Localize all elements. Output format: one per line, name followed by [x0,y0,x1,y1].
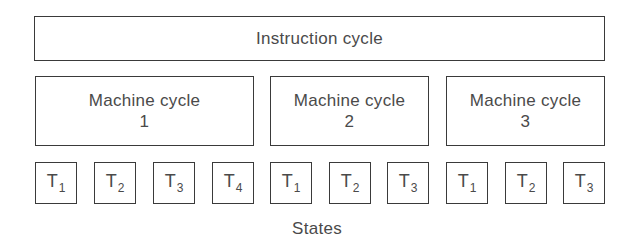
state-box: T3 [563,162,605,204]
state-box: T2 [94,162,136,204]
state-base: T [517,171,528,191]
state-subscript: 2 [353,181,360,195]
instruction-cycle-label: Instruction cycle [256,29,383,49]
state-subscript: 3 [177,181,184,195]
state-box: T1 [35,162,77,204]
state-base: T [224,171,235,191]
instruction-cycle-box: Instruction cycle [34,16,605,61]
state-box: T2 [505,162,547,204]
states-caption: States [0,219,634,239]
state-subscript: 3 [411,181,418,195]
state-subscript: 2 [529,181,536,195]
state-subscript: 2 [118,181,125,195]
state-base: T [458,171,469,191]
state-subscript: 4 [236,181,243,195]
state-box: T3 [153,162,195,204]
machine-cycle-label: Machine cycle [294,90,406,111]
machine-cycle-label: Machine cycle [89,90,201,111]
state-base: T [106,171,117,191]
state-subscript: 1 [59,181,66,195]
state-box: T2 [329,162,371,204]
state-base: T [341,171,352,191]
state-subscript: 1 [294,181,301,195]
machine-cycle-number: 2 [345,111,355,132]
state-subscript: 3 [587,181,594,195]
state-base: T [575,171,586,191]
state-box: T4 [212,162,254,204]
machine-cycle-2-box: Machine cycle 2 [270,76,429,146]
machine-cycle-1-box: Machine cycle 1 [35,76,254,146]
machine-cycle-number: 1 [140,111,150,132]
state-box: T1 [446,162,488,204]
state-box: T1 [270,162,312,204]
state-base: T [399,171,410,191]
state-base: T [282,171,293,191]
machine-cycle-number: 3 [521,111,531,132]
state-subscript: 1 [470,181,477,195]
machine-cycle-label: Machine cycle [470,90,582,111]
state-base: T [47,171,58,191]
state-base: T [165,171,176,191]
state-box: T3 [387,162,429,204]
machine-cycle-3-box: Machine cycle 3 [446,76,605,146]
